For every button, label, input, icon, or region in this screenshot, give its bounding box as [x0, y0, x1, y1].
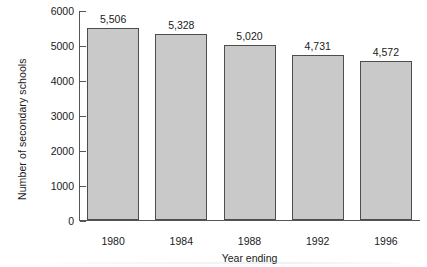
- y-tick-label: 6000: [51, 5, 74, 17]
- x-tick-label: 1988: [238, 235, 261, 247]
- bar[interactable]: [224, 45, 276, 220]
- bar[interactable]: [87, 28, 139, 219]
- bar-chart: Number of secondary schools 010002000300…: [0, 0, 427, 267]
- y-tick-label: 2000: [51, 145, 74, 157]
- scan-artifact: [30, 262, 400, 264]
- bar-slot: 5,506: [87, 11, 139, 220]
- plot-area: 0100020003000400050006000 5,5065,3285,02…: [79, 11, 420, 221]
- y-tick-label: 1000: [51, 180, 74, 192]
- bar-value-label: 5,506: [100, 13, 126, 25]
- y-tick-label: 4000: [51, 75, 74, 87]
- bar[interactable]: [155, 34, 207, 219]
- y-tick-label: 5000: [51, 40, 74, 52]
- y-tick-label: 0: [68, 215, 74, 227]
- bar[interactable]: [360, 61, 412, 220]
- x-tick-label: 1980: [101, 235, 124, 247]
- x-tick-label: 1992: [306, 235, 329, 247]
- bar-series: 5,5065,3285,0204,7314,572: [79, 11, 420, 220]
- y-axis-title: Number of secondary schools: [16, 0, 32, 200]
- bar-slot: 5,020: [224, 11, 276, 220]
- bar[interactable]: [292, 55, 344, 219]
- bar-value-label: 5,328: [168, 19, 194, 31]
- bar-slot: 5,328: [155, 11, 207, 220]
- y-tick-label: 3000: [51, 110, 74, 122]
- bar-slot: 4,731: [292, 11, 344, 220]
- bar-value-label: 5,020: [236, 30, 262, 42]
- bar-slot: 4,572: [360, 11, 412, 220]
- bar-value-label: 4,731: [305, 40, 331, 52]
- x-axis-line: [79, 220, 420, 221]
- x-tick-label: 1996: [374, 235, 397, 247]
- y-tick-mark: [80, 221, 86, 222]
- x-tick-label: 1984: [170, 235, 193, 247]
- bar-value-label: 4,572: [373, 46, 399, 58]
